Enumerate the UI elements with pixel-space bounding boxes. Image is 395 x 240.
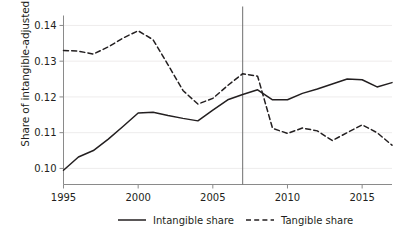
y-tick-label: 0.13: [34, 56, 56, 67]
gridlines-group: [64, 25, 393, 168]
chart-container: Share of intangible-adjusted GDP 0.100.1…: [0, 0, 395, 240]
legend-label-2: Tangible share: [280, 215, 353, 226]
y-axis-ticks: 0.100.110.120.130.14: [34, 20, 63, 174]
x-tick-label: 1995: [51, 192, 76, 203]
y-tick-label: 0.10: [34, 163, 56, 174]
x-tick-label: 2005: [200, 192, 225, 203]
line-chart-plot: 0.100.110.120.130.14 1995200020052010201…: [0, 0, 395, 240]
x-axis-ticks: 19952000200520102015: [51, 185, 375, 203]
y-tick-label: 0.12: [34, 92, 56, 103]
series-line-2: [64, 31, 393, 145]
y-tick-label: 0.11: [34, 127, 56, 138]
series-line-1: [64, 79, 393, 170]
x-tick-label: 2000: [125, 192, 150, 203]
x-tick-label: 2010: [275, 192, 300, 203]
data-series-group: [64, 31, 393, 170]
chart-legend: Intangible shareTangible share: [118, 215, 353, 226]
x-tick-label: 2015: [349, 192, 374, 203]
y-tick-label: 0.14: [34, 20, 56, 31]
legend-label-1: Intangible share: [153, 215, 234, 226]
